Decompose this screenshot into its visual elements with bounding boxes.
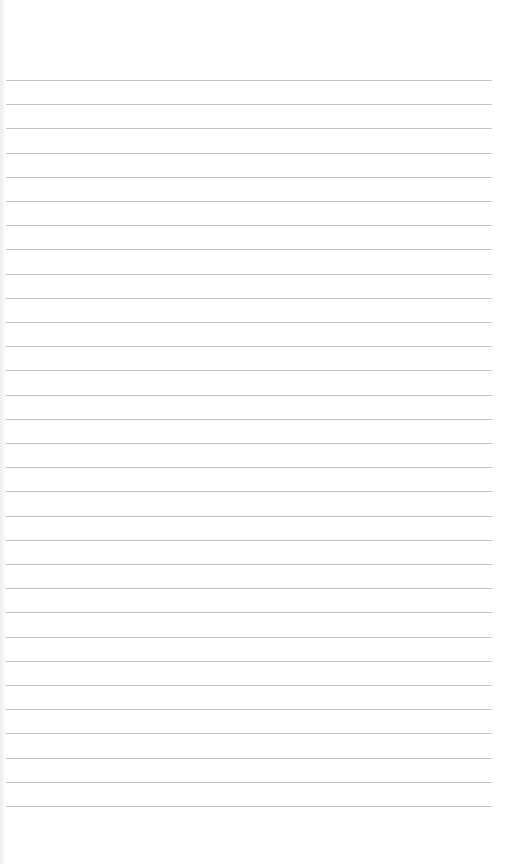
ruled-line: [6, 80, 492, 81]
ruled-line: [6, 395, 492, 396]
ruled-line: [6, 637, 492, 638]
ruled-line: [6, 128, 492, 129]
ruled-line: [6, 782, 492, 783]
ruled-line: [6, 322, 492, 323]
ruled-line: [6, 298, 492, 299]
ruled-line: [6, 516, 492, 517]
ruled-line: [6, 612, 492, 613]
ruled-line: [6, 540, 492, 541]
ruled-line: [6, 758, 492, 759]
ruled-line: [6, 104, 492, 105]
ruled-line: [6, 249, 492, 250]
ruled-line: [6, 177, 492, 178]
ruled-line: [6, 709, 492, 710]
ruled-line: [6, 346, 492, 347]
ruled-line: [6, 491, 492, 492]
ruled-line: [6, 564, 492, 565]
ruled-line: [6, 806, 492, 807]
ruled-line: [6, 685, 492, 686]
ruled-line: [6, 733, 492, 734]
ruled-line: [6, 370, 492, 371]
ruled-line: [6, 153, 492, 154]
ruled-line: [6, 419, 492, 420]
ruled-line: [6, 588, 492, 589]
ruled-line: [6, 443, 492, 444]
ruled-line: [6, 661, 492, 662]
ruled-line: [6, 201, 492, 202]
ruled-line: [6, 467, 492, 468]
ruled-line: [6, 274, 492, 275]
ruled-line: [6, 225, 492, 226]
paper-edge-shadow: [0, 0, 6, 864]
